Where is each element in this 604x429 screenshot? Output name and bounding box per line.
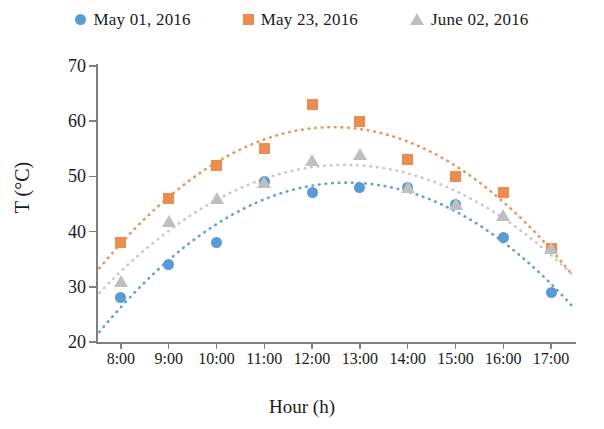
y-axis-tick-label: 70 [0,57,86,75]
y-axis-tick [89,120,96,122]
y-axis-tick-label: 60 [0,112,86,130]
legend-marker-square-icon [243,14,254,25]
y-axis-tick-label: 30 [0,278,86,296]
x-axis-tick-label: 17:00 [523,350,579,368]
data-point-marker [496,209,510,221]
data-point-marker [163,193,174,204]
legend-item-label: May 23, 2016 [261,11,358,28]
data-point-marker [449,198,463,210]
data-point-marker [114,275,128,287]
data-point-marker [498,232,509,243]
x-axis-tick [264,342,266,349]
data-point-marker [450,171,461,182]
x-axis-tick [550,342,552,349]
data-point-marker [210,192,224,204]
data-point-marker [498,187,509,198]
x-axis-tick [216,342,218,349]
y-axis-tick [89,65,96,67]
x-axis-title: Hour (h) [0,396,604,418]
data-point-marker [353,148,367,160]
legend-item-label: June 02, 2016 [431,11,529,28]
legend-item-label: May 01, 2016 [93,11,190,28]
y-axis-tick-label: 50 [0,167,86,185]
data-point-marker [307,99,318,110]
data-point-marker [354,116,365,127]
temperature-scatter-chart: May 01, 2016May 23, 2016June 02, 2016 T … [0,0,604,429]
data-point-marker [305,154,319,166]
data-point-marker [402,154,413,165]
trendlines [97,66,575,342]
x-axis-tick [503,342,505,349]
y-axis-tick-label: 40 [0,223,86,241]
x-axis-tick [455,342,457,349]
x-axis-tick [311,342,313,349]
y-axis-tick [89,341,96,343]
y-axis-tick [89,231,96,233]
x-axis-tick [168,342,170,349]
data-point-marker [115,237,126,248]
data-point-marker [544,242,558,254]
y-axis-tick-label: 20 [0,333,86,351]
legend-marker-circle-icon [75,14,86,25]
x-axis-tick [120,342,122,349]
data-point-marker [211,160,222,171]
trendline-series-2 [99,165,572,293]
legend-item[interactable]: June 02, 2016 [410,11,529,28]
legend-item[interactable]: May 01, 2016 [75,11,190,28]
x-axis-tick [359,342,361,349]
y-axis-tick [89,286,96,288]
chart-legend: May 01, 2016May 23, 2016June 02, 2016 [0,4,604,34]
y-axis-tick [89,176,96,178]
trendline-series-0 [99,183,572,332]
legend-marker-triangle-icon [410,13,424,25]
plot-area [97,66,575,342]
data-point-marker [259,143,270,154]
data-point-marker [162,215,176,227]
x-axis-tick [407,342,409,349]
data-point-marker [257,176,271,188]
legend-item[interactable]: May 23, 2016 [243,11,358,28]
data-point-marker [546,287,557,298]
data-point-marker [401,181,415,193]
